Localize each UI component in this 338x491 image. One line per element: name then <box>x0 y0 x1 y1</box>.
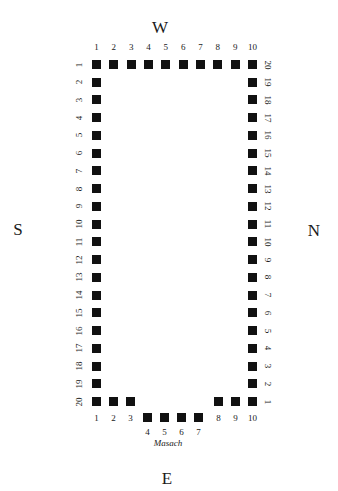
pillar-number-north: 20 <box>263 60 272 69</box>
pillar-number-north: 19 <box>263 78 272 87</box>
pillar-number-north: 1 <box>263 399 272 404</box>
pillar-east <box>231 397 240 406</box>
pillar-number-north: 16 <box>263 131 272 140</box>
pillar-number-west: 2 <box>112 43 117 52</box>
pillar-south <box>92 397 101 406</box>
pillar-north <box>248 95 257 104</box>
pillar-south <box>92 202 101 211</box>
pillar-number-north: 17 <box>263 113 272 122</box>
pillar-south <box>92 326 101 335</box>
pillar-number-south: 11 <box>75 238 84 247</box>
pillar-number-west: 6 <box>181 43 186 52</box>
pillar-west <box>161 60 170 69</box>
pillar-number-south: 18 <box>75 362 84 371</box>
pillar-north <box>248 60 257 69</box>
pillar-south <box>92 273 101 282</box>
pillar-number-east: 6 <box>179 428 184 437</box>
pillar-number-south: 8 <box>75 186 84 191</box>
pillar-west <box>196 60 205 69</box>
screen-pillar-east <box>194 413 203 422</box>
pillar-number-south: 20 <box>75 397 84 406</box>
pillar-north <box>248 149 257 158</box>
pillar-number-south: 4 <box>75 115 84 120</box>
pillar-north <box>248 344 257 353</box>
compass-west-label: W <box>152 19 168 36</box>
pillar-number-west: 10 <box>248 43 257 52</box>
screen-pillar-east <box>143 413 152 422</box>
pillar-number-south: 10 <box>75 220 84 229</box>
pillar-number-east: 2 <box>111 414 116 423</box>
pillar-number-south: 1 <box>75 62 84 67</box>
pillar-north <box>248 255 257 264</box>
pillar-number-south: 14 <box>75 291 84 300</box>
screen-pillar-east <box>177 413 186 422</box>
pillar-number-north: 4 <box>263 346 272 351</box>
pillar-north <box>248 113 257 122</box>
pillar-north <box>248 397 257 406</box>
pillar-number-south: 5 <box>75 133 84 138</box>
pillar-number-west: 1 <box>94 43 99 52</box>
pillar-number-north: 14 <box>263 166 272 175</box>
pillar-number-north: 6 <box>263 311 272 316</box>
pillar-north <box>248 220 257 229</box>
pillar-north <box>248 166 257 175</box>
compass-east-label: E <box>162 470 172 487</box>
pillar-south <box>92 291 101 300</box>
screen-pillar-east <box>160 413 169 422</box>
pillar-number-south: 7 <box>75 169 84 174</box>
pillar-north <box>248 202 257 211</box>
pillar-east <box>214 397 223 406</box>
compass-north-label: N <box>308 222 320 239</box>
pillar-south <box>92 184 101 193</box>
pillar-south <box>92 95 101 104</box>
pillar-number-south: 19 <box>75 379 84 388</box>
pillar-south <box>92 220 101 229</box>
pillar-number-east: 8 <box>216 414 221 423</box>
pillar-south <box>92 131 101 140</box>
pillar-number-north: 9 <box>263 257 272 262</box>
pillar-number-south: 9 <box>75 204 84 209</box>
pillar-number-north: 3 <box>263 364 272 369</box>
pillar-south <box>92 113 101 122</box>
pillar-number-west: 7 <box>198 43 203 52</box>
pillar-north <box>248 326 257 335</box>
pillar-number-east: 3 <box>128 414 133 423</box>
pillar-west <box>213 60 222 69</box>
pillar-number-north: 11 <box>263 220 272 229</box>
pillar-number-west: 4 <box>146 43 151 52</box>
pillar-north <box>248 184 257 193</box>
pillar-north <box>248 291 257 300</box>
pillar-south <box>92 255 101 264</box>
pillar-number-west: 9 <box>233 43 238 52</box>
pillar-number-north: 7 <box>263 293 272 298</box>
pillar-north <box>248 308 257 317</box>
pillar-west <box>179 60 188 69</box>
pillar-number-south: 6 <box>75 151 84 156</box>
pillar-number-south: 12 <box>75 255 84 264</box>
pillar-number-east: 5 <box>162 428 167 437</box>
pillar-south <box>92 379 101 388</box>
pillar-west <box>231 60 240 69</box>
pillar-number-north: 12 <box>263 202 272 211</box>
pillar-number-east: 4 <box>145 428 150 437</box>
pillar-number-east: 7 <box>196 428 201 437</box>
pillar-west <box>109 60 118 69</box>
pillar-number-south: 13 <box>75 273 84 282</box>
compass-south-label: S <box>13 221 22 238</box>
masach-caption: Masach <box>154 438 183 448</box>
pillar-west <box>144 60 153 69</box>
pillar-number-east: 9 <box>233 414 238 423</box>
pillar-west <box>127 60 136 69</box>
pillar-number-north: 15 <box>263 149 272 158</box>
pillar-number-west: 5 <box>164 43 169 52</box>
pillar-north <box>248 362 257 371</box>
pillar-number-east: 10 <box>248 414 257 423</box>
pillar-south <box>92 60 101 69</box>
pillar-number-north: 8 <box>263 275 272 280</box>
pillar-number-north: 18 <box>263 95 272 104</box>
pillar-number-south: 16 <box>75 326 84 335</box>
pillar-south <box>92 308 101 317</box>
pillar-number-west: 3 <box>129 43 134 52</box>
pillar-number-south: 2 <box>75 80 84 85</box>
pillar-north <box>248 379 257 388</box>
